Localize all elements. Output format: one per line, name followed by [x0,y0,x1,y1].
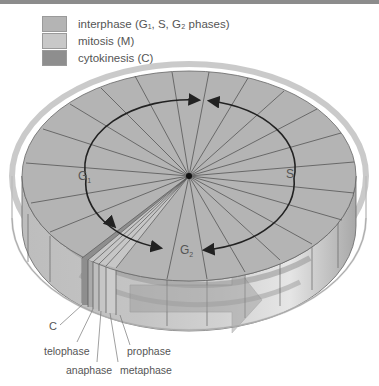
s-label: S [286,167,294,181]
prophase-label: prophase [127,345,171,357]
cell-cycle-diagram: G1 S G2 C telophase anaphase prophase me… [0,0,379,386]
metaphase-label: metaphase [120,364,172,376]
telophase-label: telophase [44,345,90,357]
anaphase-label: anaphase [66,364,112,376]
c-label: C [49,320,57,332]
center-point [186,173,192,179]
